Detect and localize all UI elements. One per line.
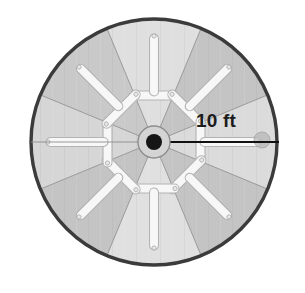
rim-fixture-icon	[254, 132, 270, 148]
hub-center-icon	[146, 134, 162, 150]
circular-patio-figure	[0, 0, 305, 293]
radius-measurement-label: 10 ft	[196, 111, 236, 130]
